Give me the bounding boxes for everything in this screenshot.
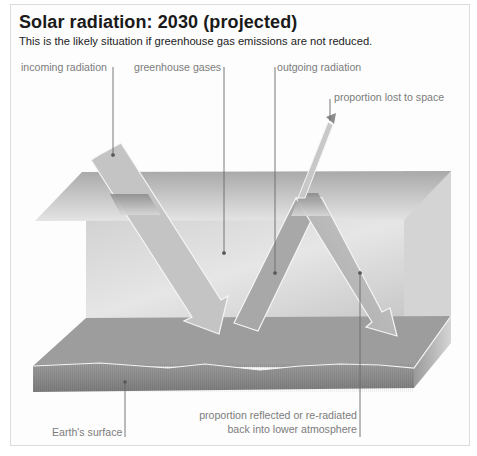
greenhouse-gas-layer <box>35 171 451 221</box>
label-incoming-radiation: incoming radiation <box>21 61 107 74</box>
label-reflected-line1: proportion reflected or re-radiated <box>180 409 357 422</box>
label-outgoing-radiation: outgoing radiation <box>277 61 361 74</box>
label-greenhouse-gases: greenhouse gases <box>134 61 221 74</box>
label-reflected-line2: back into lower atmosphere <box>180 423 357 436</box>
label-proportion-lost-to-space: proportion lost to space <box>334 91 444 104</box>
label-earths-surface: Earth's surface <box>52 426 122 439</box>
